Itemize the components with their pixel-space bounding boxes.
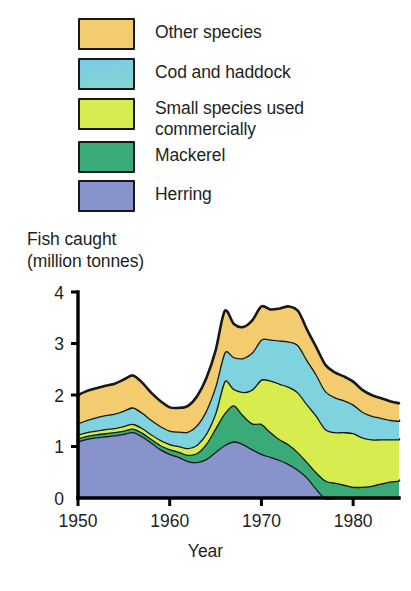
legend-item-herring: Herring — [78, 180, 212, 212]
legend-label-mackerel: Mackerel — [155, 141, 225, 166]
x-axis-title: Year — [0, 541, 411, 562]
legend-item-mackerel: Mackerel — [78, 141, 225, 173]
y-tick-label: 2 — [54, 386, 64, 406]
legend-label-other-species: Other species — [155, 18, 262, 43]
x-tick-label: 1980 — [334, 511, 373, 531]
legend-label-herring: Herring — [155, 180, 212, 205]
legend-item-cod-and-haddock: Cod and haddock — [78, 58, 291, 90]
x-tick-label: 1950 — [59, 511, 98, 531]
y-tick-label: 3 — [54, 334, 64, 354]
legend-label-cod-and-haddock: Cod and haddock — [155, 58, 291, 83]
figure-fish-caught: Other species Cod and haddock Small spec… — [0, 0, 411, 591]
chart-plot-area: 012341950196019701980 — [0, 270, 411, 540]
y-tick-label: 1 — [54, 437, 64, 457]
legend-swatch-mackerel — [78, 141, 135, 173]
legend-label-small-species: Small species used commercially — [155, 98, 304, 139]
legend-item-small-species: Small species used commercially — [78, 98, 304, 139]
y-axis-title: Fish caught (million tonnes) — [27, 228, 144, 272]
legend-item-other-species: Other species — [78, 18, 262, 50]
legend-swatch-herring — [78, 180, 135, 212]
x-tick-label: 1960 — [150, 511, 189, 531]
legend-swatch-cod-and-haddock — [78, 58, 135, 90]
y-tick-label: 0 — [54, 489, 64, 509]
x-tick-label: 1970 — [242, 511, 281, 531]
chart-legend: Other species Cod and haddock Small spec… — [0, 0, 411, 218]
legend-swatch-small-species — [78, 98, 135, 130]
chart-area-layers — [78, 306, 399, 499]
legend-swatch-other-species — [78, 18, 135, 50]
y-tick-label: 4 — [54, 283, 64, 303]
stacked-area-chart: 012341950196019701980 — [0, 270, 411, 540]
